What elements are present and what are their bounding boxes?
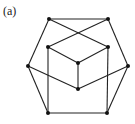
node-ITL [46, 45, 50, 49]
edge-ITL-C [48, 47, 78, 63]
edge-ITR-C [78, 47, 108, 63]
edge-L-CB [28, 66, 78, 89]
node-BL [46, 111, 50, 115]
node-BR [105, 111, 109, 115]
edge-R-CB [78, 66, 128, 89]
node-R [126, 64, 130, 68]
node-TL [47, 17, 51, 21]
node-TR [106, 17, 110, 21]
edge-R-TR [108, 19, 128, 66]
edge-L-BL [28, 66, 48, 113]
node-CB [76, 87, 80, 91]
node-C [76, 61, 80, 65]
node-L [26, 64, 30, 68]
edge-BR-R [107, 66, 128, 113]
node-ITR [106, 45, 110, 49]
edge-ITR-BR [107, 47, 108, 113]
graph-diagram [0, 0, 135, 124]
edge-TL-L [28, 19, 49, 66]
